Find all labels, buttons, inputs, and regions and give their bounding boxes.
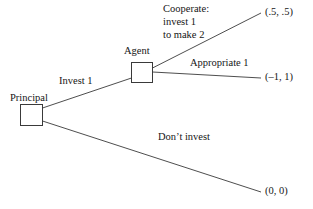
branch-label-appropriate: Appropriate 1	[190, 57, 249, 70]
node-agent[interactable]	[132, 63, 153, 83]
branch-label-invest: Invest 1	[59, 75, 93, 88]
game-tree-diagram: Principal Agent Invest 1 Cooperate: inve…	[0, 0, 313, 209]
node-label-principal: Principal	[10, 92, 48, 105]
payoff-cooperate: (.5, .5)	[265, 6, 293, 19]
branch-label-dont-invest: Don’t invest	[158, 131, 210, 144]
node-label-agent: Agent	[124, 45, 150, 58]
edge-appropriate	[153, 72, 262, 78]
edge-dont-invest	[43, 121, 262, 192]
node-principal[interactable]	[21, 105, 43, 126]
payoff-appropriate: (–1, 1)	[265, 71, 293, 84]
payoff-dont-invest: (0, 0)	[265, 185, 288, 198]
branch-label-cooperate: Cooperate: invest 1 to make 2	[163, 3, 209, 41]
